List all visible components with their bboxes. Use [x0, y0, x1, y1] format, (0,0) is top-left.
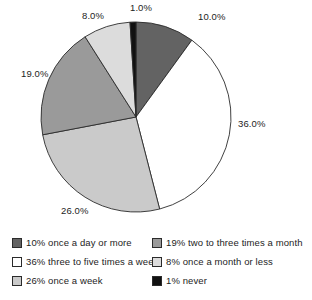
- legend-item[interactable]: 26% once a week: [12, 271, 158, 290]
- legend-swatch-icon: [12, 257, 22, 267]
- legend-swatch-icon: [152, 276, 162, 286]
- legend-swatch-icon: [152, 257, 162, 267]
- slice-label-36: 36.0%: [238, 118, 265, 129]
- legend-item-label: 26% once a week: [26, 275, 103, 286]
- slice-label-10: 10.0%: [198, 11, 225, 22]
- slice-label-19: 19.0%: [21, 68, 48, 79]
- pie-svg: [0, 0, 312, 228]
- slice-label-26: 26.0%: [61, 205, 88, 216]
- legend-item[interactable]: 8% once a month or less: [152, 252, 303, 271]
- legend-item[interactable]: 1% never: [152, 271, 303, 290]
- slice-label-8: 8.0%: [82, 10, 104, 21]
- legend-column-right: 19% two to three times a month8% once a …: [152, 233, 303, 290]
- slice-label-1: 1.0%: [130, 2, 152, 13]
- legend-column-left: 10% once a day or more36% three to five …: [12, 233, 158, 290]
- legend-item-label: 8% once a month or less: [166, 256, 273, 267]
- chart-legend: 10% once a day or more36% three to five …: [12, 233, 304, 293]
- pie-plot-area: 10.0% 36.0% 26.0% 19.0% 8.0% 1.0%: [0, 0, 312, 228]
- legend-item-label: 10% once a day or more: [26, 237, 132, 248]
- legend-item-label: 1% never: [166, 275, 207, 286]
- legend-item-label: 19% two to three times a month: [166, 237, 303, 248]
- legend-swatch-icon: [12, 276, 22, 286]
- legend-swatch-icon: [152, 238, 162, 248]
- legend-item[interactable]: 36% three to five times a week: [12, 252, 158, 271]
- legend-item[interactable]: 19% two to three times a month: [152, 233, 303, 252]
- legend-swatch-icon: [12, 238, 22, 248]
- pie-chart-figure: 10.0% 36.0% 26.0% 19.0% 8.0% 1.0% 10% on…: [0, 0, 312, 300]
- legend-item[interactable]: 10% once a day or more: [12, 233, 158, 252]
- legend-item-label: 36% three to five times a week: [26, 256, 158, 267]
- pie-slice-group: [41, 22, 231, 212]
